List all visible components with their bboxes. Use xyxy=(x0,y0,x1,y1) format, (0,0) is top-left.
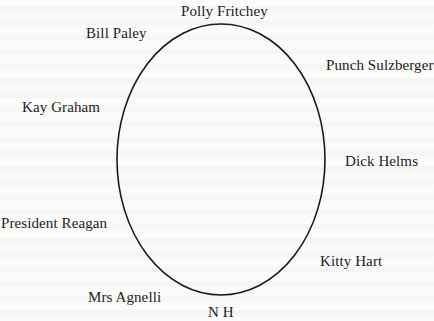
label-polly-fritchey: Polly Fritchey xyxy=(181,4,268,19)
table-ellipse xyxy=(117,24,325,295)
label-kay-graham: Kay Graham xyxy=(22,100,100,115)
label-kitty-hart: Kitty Hart xyxy=(320,254,382,269)
label-president-reagan: President Reagan xyxy=(1,216,107,231)
label-bill-paley: Bill Paley xyxy=(86,26,147,41)
label-punch-sulzberger: Punch Sulzberger xyxy=(326,58,434,73)
label-mrs-agnelli: Mrs Agnelli xyxy=(88,290,161,305)
label-dick-helms: Dick Helms xyxy=(345,154,418,169)
label-n-h: N H xyxy=(208,305,234,320)
